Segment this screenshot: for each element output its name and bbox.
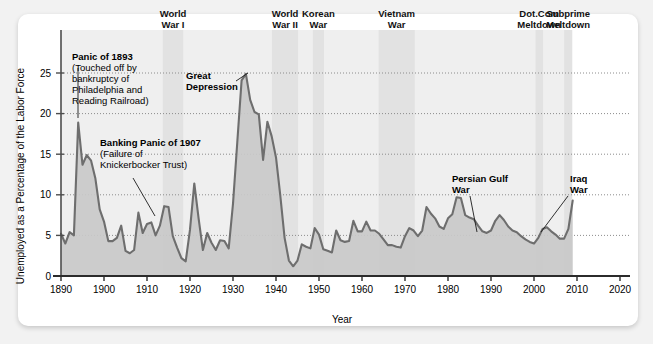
x-tick-label: 2020 [609,284,632,295]
x-tick-label: 1970 [394,284,417,295]
event-band-label: World [160,8,187,19]
annotation-text: Knickerbocker Trust) [100,159,187,170]
x-tick-label: 2000 [523,284,546,295]
annotation-text: Banking Panic of 1907 [100,137,201,148]
x-tick-label: 1910 [136,284,159,295]
event-band-label: War II [272,19,298,30]
y-tick-label: 15 [40,149,52,160]
x-axis-title: Year [332,314,353,325]
event-band-label: Meltdown [546,19,590,30]
annotation-text: War [452,184,470,195]
event-band-label: Korean [302,8,335,19]
x-tick-label: 1930 [222,284,245,295]
y-tick-label: 20 [40,108,52,119]
y-tick-label: 5 [45,230,51,241]
y-tick-label: 0 [45,271,51,282]
event-band-label: War [310,19,328,30]
annotation-text: (Failure of [100,148,143,159]
event-band-label: Subprime [546,8,590,19]
x-tick-label: 1900 [93,284,116,295]
x-tick-label: 1950 [308,284,331,295]
annotation-text: Reading Railroad) [72,95,149,106]
x-tick-label: 1960 [351,284,374,295]
event-band-label: Vietnam [378,8,415,19]
region-shade [298,30,312,276]
y-tick-label: 10 [40,189,52,200]
x-tick-label: 1980 [437,284,460,295]
chart-container: 0510152025 18901900191019201930194019501… [0,0,653,344]
event-band-label: War I [162,19,185,30]
x-tick-label: 1940 [265,284,288,295]
x-tick-label: 2010 [566,284,589,295]
annotation-text: Great [186,70,212,81]
annotation-text: War [570,184,588,195]
y-tick-label: 25 [40,68,52,79]
x-tick-label: 1990 [480,284,503,295]
unemployment-chart: 0510152025 18901900191019201930194019501… [0,0,653,344]
annotation-text: Iraq [570,173,588,184]
event-band-label: World [272,8,299,19]
annotation-text: Philadelphia and [72,84,142,95]
event-band-label: War [388,19,406,30]
annotation-text: Persian Gulf [452,173,509,184]
annotation-text: (Touched off by [72,62,137,73]
event-band-label-group: WorldWar IWorldWar IIKoreanWarVietnamWar… [160,8,591,30]
x-tick-label: 1920 [179,284,202,295]
annotation-text: bankruptcy of [72,73,129,84]
annotation-text: Depression [186,81,238,92]
x-tick-group: 1890190019101920193019401950196019701980… [50,276,632,295]
annotation-text: Panic of 1893 [72,51,133,62]
x-tick-label: 1890 [50,284,73,295]
y-axis-title: Unemployed as a Percentage of the Labor … [15,67,26,284]
